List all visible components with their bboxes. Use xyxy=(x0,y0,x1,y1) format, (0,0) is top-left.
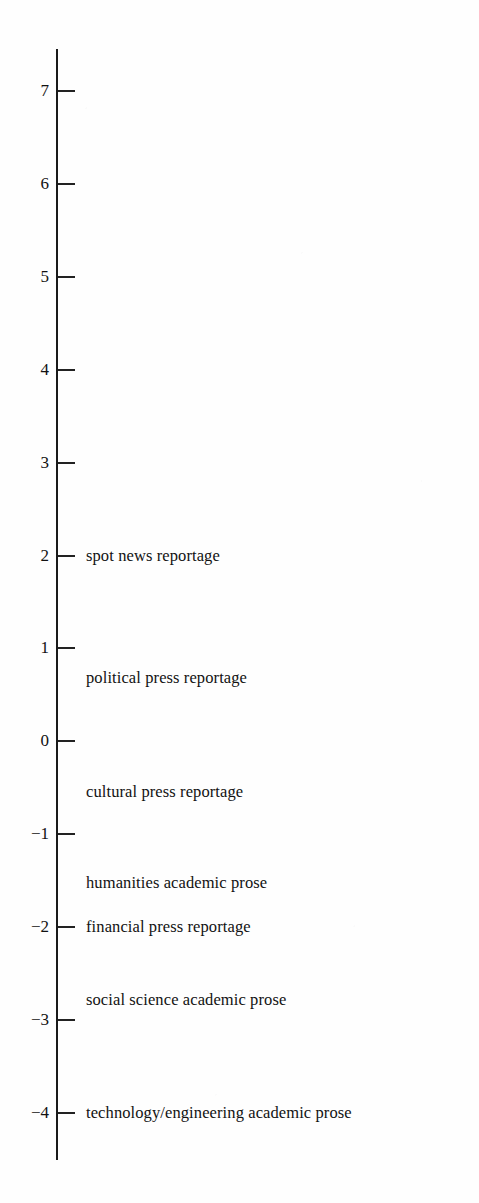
axis-tick-label: 6 xyxy=(41,175,50,192)
axis-tick-label: −4 xyxy=(31,1104,49,1121)
axis-tick-label: 7 xyxy=(41,82,50,99)
axis-tick-label: −2 xyxy=(31,918,49,935)
axis-tick-label: −1 xyxy=(31,825,49,842)
genre-label: financial press reportage xyxy=(86,919,251,936)
vertical-axis-line xyxy=(56,49,58,1160)
axis-tick-label: 2 xyxy=(41,547,50,564)
axis-tick-label: 0 xyxy=(41,732,50,749)
scale-plot-figure: 76543210−1−2−3−4 spot news reportagepoli… xyxy=(0,0,479,1203)
axis-tick-label: 3 xyxy=(41,454,50,471)
axis-tick-label: 5 xyxy=(41,268,50,285)
axis-tick-mark xyxy=(58,369,75,371)
axis-tick-mark xyxy=(58,647,75,649)
axis-tick-label: 4 xyxy=(41,361,50,378)
axis-tick-mark xyxy=(58,555,75,557)
axis-tick-mark xyxy=(58,183,75,185)
axis-tick-mark xyxy=(58,1019,75,1021)
genre-label: spot news reportage xyxy=(86,548,220,565)
paper-texture xyxy=(0,0,479,1203)
axis-tick-mark xyxy=(58,90,75,92)
axis-tick-mark xyxy=(58,740,75,742)
genre-label: political press reportage xyxy=(86,670,247,687)
axis-tick-mark xyxy=(58,276,75,278)
genre-label: humanities academic prose xyxy=(86,875,267,892)
axis-tick-mark xyxy=(58,926,75,928)
axis-tick-mark xyxy=(58,1112,75,1114)
axis-tick-label: 1 xyxy=(41,639,50,656)
axis-tick-mark xyxy=(58,833,75,835)
genre-label: cultural press reportage xyxy=(86,784,243,801)
axis-tick-mark xyxy=(58,462,75,464)
genre-label: technology/engineering academic prose xyxy=(86,1105,352,1122)
axis-tick-label: −3 xyxy=(31,1011,49,1028)
genre-label: social science academic prose xyxy=(86,992,286,1009)
